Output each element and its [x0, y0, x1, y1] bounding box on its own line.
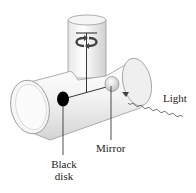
apparatus-diagram: Light Mirror Black disk [0, 0, 196, 193]
mirror [105, 77, 119, 92]
black-disk-label-line1: Black [50, 158, 78, 170]
black-disk [57, 92, 69, 107]
light-label: Light [163, 92, 187, 104]
black-disk-label: Black disk [50, 158, 78, 182]
mirror-label: Mirror [96, 142, 125, 154]
black-disk-label-line2: disk [50, 170, 78, 182]
